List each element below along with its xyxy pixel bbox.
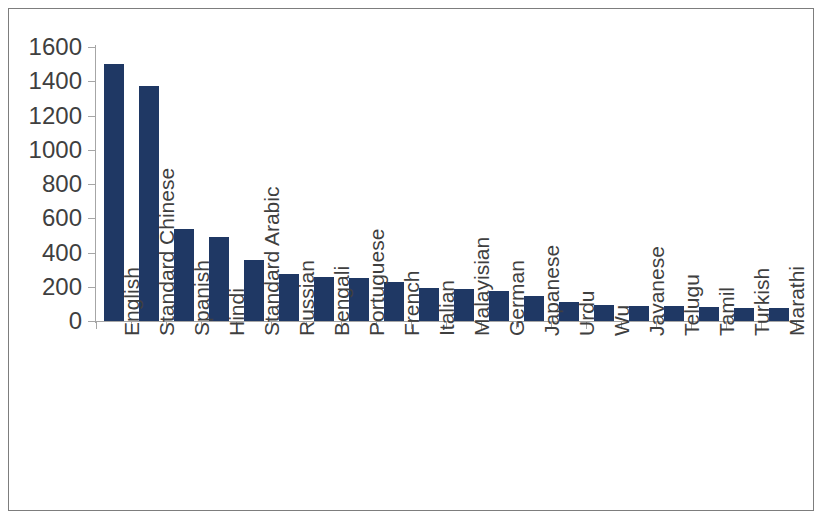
x-axis-tick: [96, 321, 97, 329]
x-axis-tick-label: Telugu: [682, 274, 702, 336]
x-axis-tick-label: Turkish: [752, 268, 772, 336]
x-axis-tick-label: Standard Arabic: [262, 187, 282, 336]
x-axis-tick-label: Spanish: [192, 260, 212, 336]
x-axis-tick-label: Hindi: [227, 288, 247, 336]
x-axis-tick-label: English: [122, 267, 142, 336]
x-axis-tick-label: Portuguese: [367, 229, 387, 336]
x-axis-tick-label: Italian: [437, 280, 457, 336]
x-axis-tick-label: Marathi: [787, 266, 807, 336]
bar-chart: 02004006008001000120014001600 EnglishSta…: [0, 0, 824, 527]
x-axis-tick-label: Tamil: [717, 287, 737, 336]
x-axis-tick-label: Standard Chinese: [157, 168, 177, 336]
x-axis-tick-label: Japanese: [542, 245, 562, 336]
x-axis-tick-label: German: [507, 260, 527, 336]
x-axis-tick-label: Malayisian: [472, 237, 492, 336]
x-axis-tick-label: Javanese: [647, 246, 667, 336]
x-axis-tick-label: Urdu: [577, 290, 597, 336]
x-axis-tick-label: Bengali: [332, 266, 352, 336]
x-axis-tick-label: Wu: [612, 305, 632, 336]
x-axis-tick-label: French: [402, 271, 422, 336]
x-axis-tick-label: Russian: [297, 260, 317, 336]
y-axis-tick: [88, 321, 96, 322]
